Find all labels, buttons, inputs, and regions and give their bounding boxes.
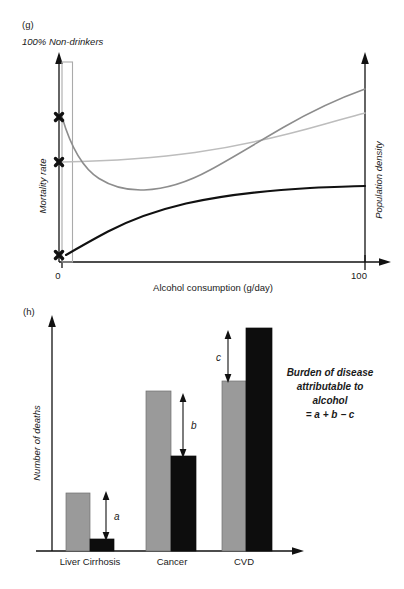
note-line-1: Burden of disease [287,367,374,378]
figure-container: (g) 100% Non-drinkers [0,0,404,589]
category-label-cvd: CVD [234,556,254,567]
panel-g-label: (g) [22,19,34,30]
note-line-4: = a + b − c [306,409,355,420]
panel-g-y-left-title: Mortality rate [37,159,48,214]
annotation-label-b: b [191,420,197,431]
panel-h-y-axis-arrowhead [48,315,56,327]
panel-g-top-note: 100% Non-drinkers [22,36,104,47]
bar-black-liver-cirrhosis[interactable] [90,539,114,551]
category-label-liver-cirrhosis: Liver Cirrhosis [60,556,121,567]
series-mortality-curve [62,89,365,190]
annotation-label-a: a [114,511,120,522]
annotation-arrow-b: b [180,393,197,458]
panel-h-x-axis-arrowhead [292,547,304,555]
x-axis-arrowhead [379,258,391,266]
panel-g-mortality-density-chart: (g) 100% Non-drinkers [0,0,404,293]
annotation-arrow-c: c [216,330,231,383]
panel-g-y-right-title: Population density [373,140,384,219]
series-reference-mortality-curve [62,113,365,162]
panel-h-y-title: Number of deaths [31,405,42,481]
burden-of-disease-note: Burden of disease attributable to alcoho… [287,367,374,420]
bar-grey-liver-cirrhosis[interactable] [66,493,90,551]
panel-h-label: (h) [23,306,35,317]
right-axis-arrowhead [361,52,369,64]
annotation-arrow-a: a [103,491,120,541]
panel-h-deaths-bar-chart: (h) [0,293,404,589]
panel-g-x-axis [59,258,391,266]
panel-g-x-tick-label-100: 100 [351,270,367,281]
panel-g-x-tick-label-0: 0 [55,270,60,281]
bar-black-cvd[interactable] [246,328,272,551]
panel-h-y-axis [48,315,56,551]
note-line-3: alcohol [312,395,347,406]
category-label-cancer: Cancer [157,556,188,567]
series-population-density-curve [66,186,365,255]
panel-h-svg: (h) [0,293,404,589]
panel-g-svg: (g) 100% Non-drinkers [0,0,404,293]
panel-g-x-title: Alcohol consumption (g/day) [153,282,273,293]
bar-grey-cancer[interactable] [146,391,171,551]
bar-group-liver-cirrhosis [66,493,114,551]
bar-black-cancer[interactable] [171,456,196,551]
bar-grey-cvd[interactable] [222,381,246,551]
panel-g-right-axis [361,52,369,262]
bar-group-cancer [146,391,196,551]
bar-group-cvd [222,328,272,551]
note-line-2: attributable to [297,381,364,392]
annotation-label-c: c [216,352,221,363]
